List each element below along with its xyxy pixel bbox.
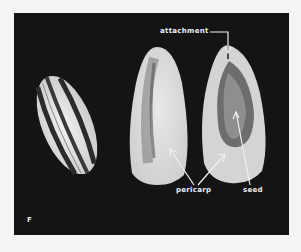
attachment-label: attachment bbox=[160, 27, 209, 35]
pericarp-achene bbox=[130, 47, 188, 185]
whole-achene bbox=[24, 67, 109, 182]
seed-label: seed bbox=[243, 186, 263, 194]
seed-illustration bbox=[14, 13, 289, 235]
opened-achene bbox=[202, 45, 266, 183]
panel-letter: F bbox=[27, 216, 32, 224]
pericarp-label: pericarp bbox=[176, 186, 211, 194]
figure-photo: attachment pericarp seed F bbox=[14, 13, 289, 235]
